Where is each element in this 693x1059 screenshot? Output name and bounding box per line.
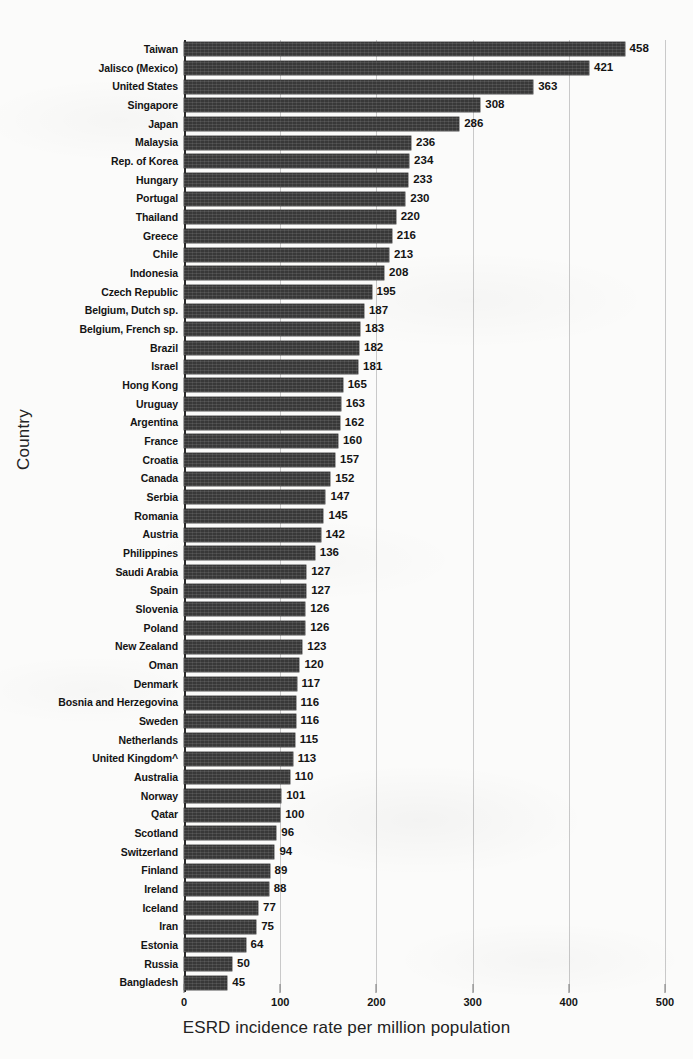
gridline-500 — [665, 40, 666, 992]
category-label: Australia — [134, 772, 178, 783]
category-label: Qatar — [151, 809, 178, 820]
x-tick-label-400: 400 — [560, 996, 578, 1008]
bar-value-label: 458 — [630, 44, 649, 56]
bar-row: United States363 — [184, 77, 665, 96]
bar-value-label: 233 — [413, 174, 432, 186]
bar: 120 — [184, 658, 299, 672]
bar-row: Netherlands115 — [184, 731, 665, 750]
category-label: Belgium, French sp. — [80, 324, 178, 335]
bar: 160 — [184, 434, 338, 448]
category-label: Czech Republic — [101, 287, 178, 298]
category-label: Denmark — [134, 679, 178, 690]
bar-value-label: 234 — [414, 156, 433, 168]
bar-row: Slovenia126 — [184, 600, 665, 619]
category-label: Romania — [134, 511, 178, 522]
bar: 50 — [184, 957, 232, 971]
bar: 152 — [184, 472, 330, 486]
bar: 163 — [184, 397, 341, 411]
category-label: Hong Kong — [122, 380, 178, 391]
bar-row: Ireland88 — [184, 880, 665, 899]
bar-value-label: 162 — [345, 417, 364, 429]
x-tick-mark-300 — [472, 984, 473, 993]
bar-value-label: 113 — [298, 753, 317, 765]
bar-value-label: 163 — [346, 398, 365, 410]
bar-rows: Taiwan458Jalisco (Mexico)421United State… — [184, 40, 665, 992]
category-label: Rep. of Korea — [111, 156, 178, 167]
bar-value-label: 127 — [311, 585, 330, 597]
plot-area: Taiwan458Jalisco (Mexico)421United State… — [184, 40, 665, 992]
category-label: Norway — [141, 791, 178, 802]
category-label: Iceland — [143, 903, 178, 914]
bar-value-label: 363 — [538, 81, 557, 93]
bar-row: Indonesia208 — [184, 264, 665, 283]
x-tick-mark-400 — [568, 984, 569, 993]
bar: 233 — [184, 173, 408, 187]
bar-value-label: 187 — [369, 305, 388, 317]
bar-row: Rep. of Korea234 — [184, 152, 665, 171]
category-label: Israel — [151, 361, 178, 372]
bar: 136 — [184, 546, 315, 560]
bar-value-label: 181 — [363, 361, 382, 373]
bar-row: Canada152 — [184, 469, 665, 488]
bar-row: Scotland96 — [184, 824, 665, 843]
bar-value-label: 64 — [251, 940, 264, 952]
category-label: Netherlands — [118, 735, 178, 746]
bar-value-label: 127 — [311, 566, 330, 578]
bar-value-label: 94 — [279, 846, 292, 858]
bar-row: Hong Kong165 — [184, 376, 665, 395]
bar: 45 — [184, 976, 227, 990]
bar-value-label: 116 — [301, 697, 320, 709]
category-label: Oman — [149, 660, 178, 671]
category-label: Ireland — [144, 884, 178, 895]
bar-row: Iran75 — [184, 917, 665, 936]
category-label: Portugal — [136, 193, 178, 204]
bar: 182 — [184, 341, 359, 355]
category-label: Serbia — [147, 492, 179, 503]
bar-value-label: 195 — [377, 286, 396, 298]
category-label: Jalisco (Mexico) — [98, 63, 178, 74]
bar-row: New Zealand123 — [184, 637, 665, 656]
bar: 165 — [184, 378, 343, 392]
bar: 216 — [184, 229, 392, 243]
category-label: Hungary — [136, 175, 178, 186]
bar: 96 — [184, 826, 276, 840]
bar: 116 — [184, 696, 296, 710]
x-axis-title: ESRD incidence rate per million populati… — [0, 1018, 693, 1038]
bar: 126 — [184, 621, 305, 635]
bar: 208 — [184, 266, 384, 280]
category-label: Saudi Arabia — [115, 567, 178, 578]
bar: 236 — [184, 136, 411, 150]
category-label: Scotland — [134, 828, 178, 839]
bar: 308 — [184, 98, 480, 112]
bar-value-label: 286 — [464, 118, 483, 130]
bar: 181 — [184, 360, 358, 374]
bar-row: Oman120 — [184, 656, 665, 675]
bar-value-label: 123 — [307, 641, 326, 653]
bar-row: Finland89 — [184, 861, 665, 880]
bar-value-label: 236 — [416, 137, 435, 149]
bar: 230 — [184, 192, 405, 206]
bar: 147 — [184, 490, 325, 504]
bar-row: Malaysia236 — [184, 133, 665, 152]
category-label: Indonesia — [130, 268, 178, 279]
bar-value-label: 165 — [348, 380, 367, 392]
category-label: Singapore — [128, 100, 178, 111]
bar-row: United Kingdom^113 — [184, 749, 665, 768]
bar-value-label: 230 — [410, 193, 429, 205]
bar-value-label: 45 — [232, 977, 245, 989]
category-label: Estonia — [141, 940, 178, 951]
bar-value-label: 220 — [401, 212, 420, 224]
category-label: New Zealand — [115, 641, 178, 652]
bar-row: Sweden116 — [184, 712, 665, 731]
category-label: Bosnia and Herzegovina — [58, 697, 178, 708]
category-label: Uruguay — [136, 399, 178, 410]
bar: 162 — [184, 416, 340, 430]
bar: 157 — [184, 453, 335, 467]
bar-value-label: 208 — [389, 268, 408, 280]
bar-value-label: 116 — [301, 716, 320, 728]
bar-row: Spain127 — [184, 581, 665, 600]
category-label: Belgium, Dutch sp. — [85, 305, 178, 316]
bar-value-label: 77 — [263, 902, 276, 914]
bar-value-label: 213 — [394, 249, 413, 261]
bar-row: Denmark117 — [184, 675, 665, 694]
